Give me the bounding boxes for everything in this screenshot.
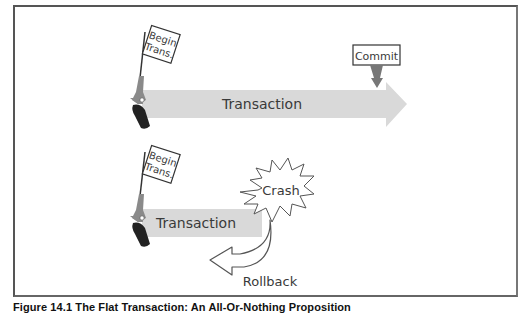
begin-trans-flag: Begin Trans. bbox=[142, 25, 181, 63]
figure-caption: Figure 14.1 The Flat Transaction: An All… bbox=[13, 301, 351, 313]
transaction-label-2: Transaction bbox=[155, 215, 236, 231]
rollback-label: Rollback bbox=[243, 274, 298, 289]
commit-scenario: Transaction Begin Trans. Commit bbox=[130, 25, 407, 128]
commit-pointer-icon bbox=[370, 65, 383, 88]
commit-label: Commit bbox=[355, 50, 399, 63]
transaction-label: Transaction bbox=[221, 96, 302, 112]
commit-flag: Commit bbox=[353, 45, 400, 88]
begin-trans-flag-2: Begin Trans. bbox=[142, 145, 181, 183]
rollback-scenario: Transaction Begin Trans. Crash Rollback bbox=[130, 145, 314, 289]
crash-label: Crash bbox=[262, 183, 299, 198]
